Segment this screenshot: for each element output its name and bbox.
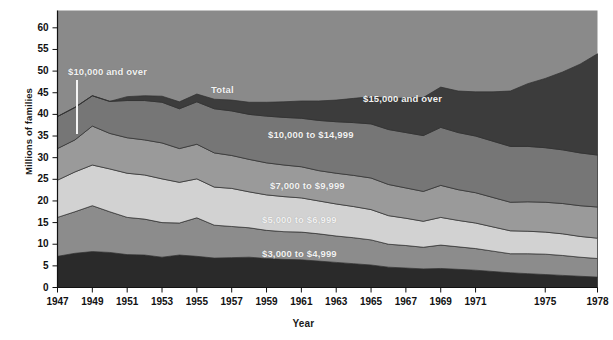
y-tick-label-50: 50	[15, 66, 49, 76]
y-tick-label-30: 30	[15, 153, 49, 163]
y-tick-label-0: 0	[15, 283, 49, 293]
annotation-total: Total	[211, 84, 234, 95]
annotation-10000-and-over: $10,000 and over	[68, 66, 147, 77]
annotation-pointer-line	[76, 80, 78, 134]
annotation-7000-to-9999: $7,000 to $9,999	[270, 180, 345, 191]
annotation-3000-to-4999: $3,000 to $4,999	[262, 248, 337, 259]
x-tick-label-1971: 1971	[453, 296, 499, 307]
y-tick-label-35: 35	[15, 131, 49, 141]
y-tick-label-15: 15	[15, 218, 49, 228]
y-tick-label-40: 40	[15, 109, 49, 119]
annotation-5000-to-6999: $5,000 to $6,999	[262, 214, 337, 225]
y-tick-label-55: 55	[15, 44, 49, 54]
annotation-10000-to-14999: $10,000 to $14,999	[268, 129, 354, 140]
y-tick-label-10: 10	[15, 239, 49, 249]
y-tick-label-20: 20	[15, 196, 49, 206]
x-axis-title: Year	[0, 318, 607, 329]
y-tick-label-5: 5	[15, 261, 49, 271]
x-tick-label-1975: 1975	[522, 296, 568, 307]
x-tick-label-1978: 1978	[575, 296, 613, 307]
annotation-15000-and-over: $15,000 and over	[363, 93, 442, 104]
y-tick-label-25: 25	[15, 174, 49, 184]
y-tick-label-45: 45	[15, 88, 49, 98]
y-tick-label-60: 60	[15, 23, 49, 33]
